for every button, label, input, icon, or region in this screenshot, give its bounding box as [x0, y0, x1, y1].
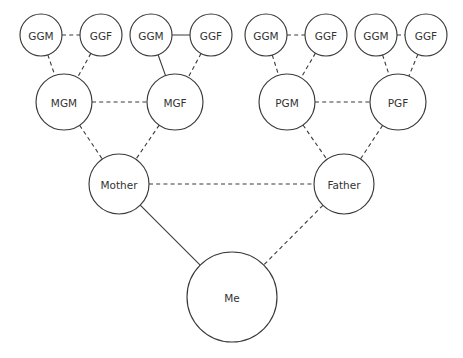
connector-ggm3-to-pgm [272, 55, 278, 75]
node-layer: GGMGGFGGMGGFGGMGGFGGMGGFMGMMGFPGMPGFMoth… [20, 14, 447, 342]
node-label-ggm4: GGM [363, 30, 388, 42]
node-label-mother: Mother [100, 179, 138, 191]
connector-mgm-to-mother [80, 125, 103, 159]
node-mother[interactable]: Mother [89, 154, 149, 214]
node-father[interactable]: Father [314, 154, 374, 214]
pedigree-canvas: GGMGGFGGMGGFGGMGGFGGMGGFMGMMGFPGMPGFMoth… [0, 0, 463, 358]
node-ggf1[interactable]: GGF [80, 14, 122, 56]
node-label-pgf: PGF [388, 97, 409, 109]
node-label-pgm: PGM [275, 97, 299, 109]
connector-pgm-to-father [303, 125, 327, 159]
connector-pgf-to-father [361, 125, 383, 159]
node-mgm[interactable]: MGM [36, 74, 92, 130]
node-label-ggm3: GGM [253, 30, 278, 42]
node-ggf2[interactable]: GGF [190, 14, 232, 56]
edge-layer [48, 35, 418, 265]
node-label-ggf2: GGF [200, 30, 222, 42]
node-ggf4[interactable]: GGF [405, 14, 447, 56]
node-me[interactable]: Me [187, 252, 277, 342]
connector-mother-to-me [140, 205, 200, 265]
node-ggm3[interactable]: GGM [245, 14, 287, 56]
connector-ggf4-to-pgf [409, 54, 418, 76]
connector-ggf2-to-mgf [188, 54, 201, 78]
node-ggm4[interactable]: GGM [355, 14, 397, 56]
connector-ggm1-to-mgm [48, 55, 55, 76]
node-label-ggf1: GGF [90, 30, 112, 42]
node-label-father: Father [327, 179, 361, 191]
node-label-mgm: MGM [51, 97, 77, 109]
connector-father-to-me [264, 205, 323, 265]
connector-mgf-to-mother [136, 125, 159, 159]
node-label-mgf: MGF [163, 97, 186, 109]
node-label-me: Me [224, 292, 240, 304]
node-mgf[interactable]: MGF [147, 74, 203, 130]
connector-ggf3-to-pgm [301, 53, 315, 78]
node-pgf[interactable]: PGF [370, 74, 426, 130]
node-label-ggf4: GGF [415, 30, 437, 42]
node-ggm2[interactable]: GGM [130, 14, 172, 56]
family-tree-diagram: GGMGGFGGMGGFGGMGGFGGMGGFMGMMGFPGMPGFMoth… [0, 0, 463, 358]
node-ggf3[interactable]: GGF [305, 14, 347, 56]
connector-ggm2-to-mgf [158, 55, 165, 76]
node-ggm1[interactable]: GGM [20, 14, 62, 56]
node-label-ggm1: GGM [28, 30, 53, 42]
connector-ggm4-to-pgf [383, 55, 390, 75]
node-pgm[interactable]: PGM [259, 74, 315, 130]
node-label-ggf3: GGF [315, 30, 337, 42]
connector-ggf1-to-mgm [78, 53, 91, 77]
node-label-ggm2: GGM [138, 30, 163, 42]
